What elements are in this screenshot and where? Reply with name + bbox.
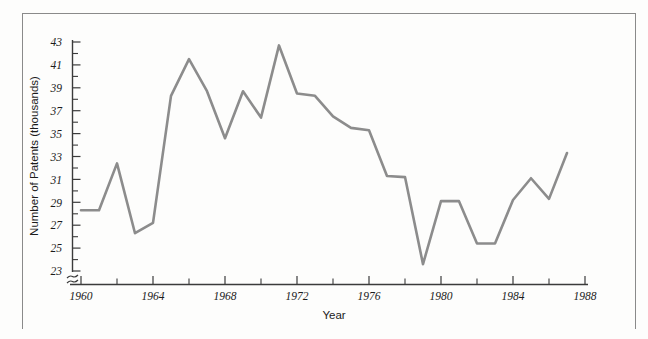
x-tick-label: 1972 [286,290,309,302]
x-axis-tick-labels: 1960 1964 1968 1972 1976 1980 1984 1988 [70,290,597,302]
x-tick-label: 1964 [142,290,165,302]
x-tick-label: 1984 [502,290,525,302]
y-tick-label: 33 [50,151,63,163]
y-tick-label: 25 [51,242,63,254]
x-tick-label: 1976 [358,290,381,302]
chart-svg: 23 25 27 29 31 33 35 37 39 41 43 1960 19… [0,0,648,339]
x-tick-label: 1980 [430,290,453,302]
line-chart: 23 25 27 29 31 33 35 37 39 41 43 1960 19… [0,0,648,339]
y-tick-label: 27 [51,219,64,231]
data-series-line [81,45,567,264]
y-tick-label: 35 [50,128,63,140]
y-tick-label: 39 [50,82,63,94]
y-tick-label: 23 [51,265,63,277]
y-tick-label: 41 [51,59,63,71]
x-tick-label: 1988 [574,290,597,302]
x-axis-title: Year [322,309,345,321]
y-tick-label: 37 [50,105,64,117]
x-tick-label: 1968 [214,290,237,302]
y-tick-label: 31 [50,174,63,186]
axis-break-icon [67,275,78,283]
x-tick-label: 1960 [70,290,93,302]
y-tick-label: 29 [51,197,63,209]
chart-page: 23 25 27 29 31 33 35 37 39 41 43 1960 19… [0,0,648,339]
y-axis-tick-labels: 23 25 27 29 31 33 35 37 39 41 43 [50,36,64,277]
y-tick-label: 43 [51,36,63,48]
y-axis-title: Number of Patents (thousands) [28,76,40,236]
x-axis-minor-ticks [117,279,549,285]
